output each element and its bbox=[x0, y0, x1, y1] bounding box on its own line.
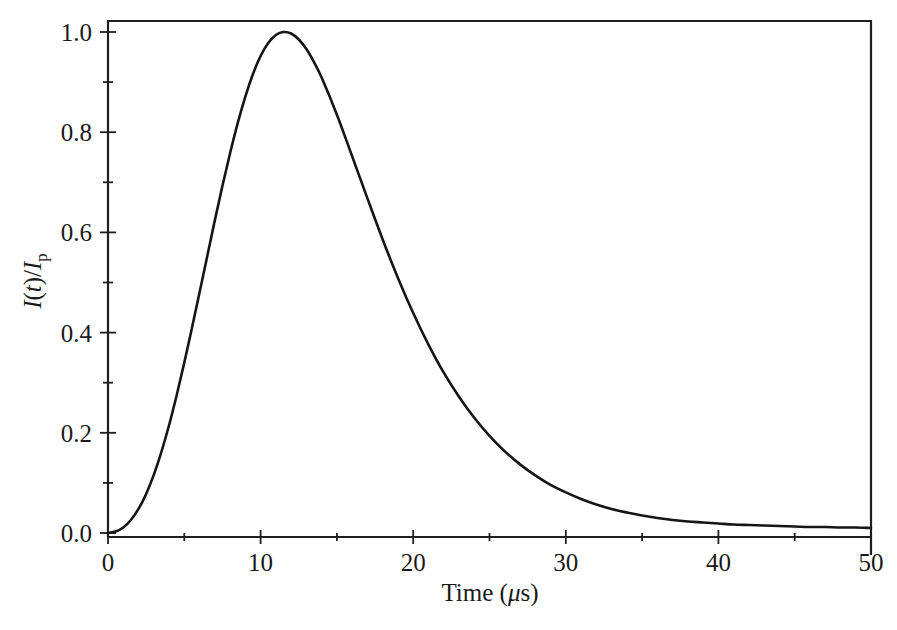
axis-frame-path bbox=[108, 21, 871, 555]
x-tick-label: 40 bbox=[706, 549, 731, 576]
x-tick-label: 10 bbox=[248, 549, 273, 576]
y-tick-label: 0.6 bbox=[61, 219, 92, 246]
y-tick-label: 0.4 bbox=[61, 320, 93, 347]
chart-figure: 01020304050 0.00.20.40.60.81.0 Time (μs)… bbox=[0, 0, 897, 630]
x-tick-label: 0 bbox=[102, 549, 115, 576]
y-tick-label: 1.0 bbox=[61, 19, 92, 46]
x-tick-label: 20 bbox=[401, 549, 426, 576]
y-tick-label: 0.2 bbox=[61, 420, 92, 447]
x-axis-tick-labels: 01020304050 bbox=[102, 549, 884, 576]
y-tick-label: 0.0 bbox=[61, 520, 92, 547]
y-tick-label: 0.8 bbox=[61, 119, 92, 146]
line-chart-canvas: 01020304050 0.00.20.40.60.81.0 Time (μs)… bbox=[0, 0, 897, 630]
x-tick-label: 30 bbox=[553, 549, 578, 576]
y-axis-tick-labels: 0.00.20.40.60.81.0 bbox=[61, 19, 93, 547]
x-axis-title: Time (μs) bbox=[441, 579, 538, 607]
plot-frame bbox=[108, 21, 871, 555]
y-axis-title: I(t)/Ip bbox=[19, 253, 51, 310]
x-tick-label: 50 bbox=[859, 549, 884, 576]
current-waveform-curve bbox=[108, 32, 871, 533]
